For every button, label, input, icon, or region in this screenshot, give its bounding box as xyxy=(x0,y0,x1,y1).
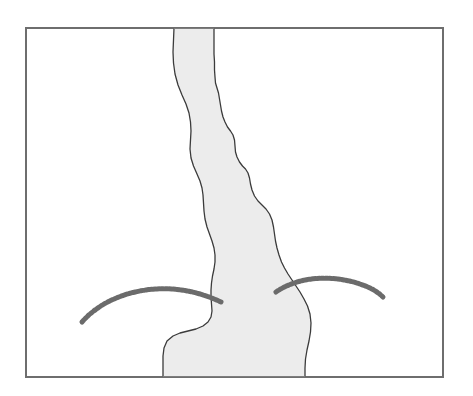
figure-canvas xyxy=(0,0,473,396)
figure-container xyxy=(0,0,473,396)
